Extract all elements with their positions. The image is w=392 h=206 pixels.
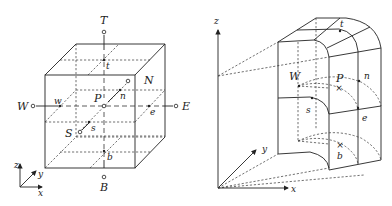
label-b: b: [107, 152, 113, 162]
label-S: S: [65, 127, 73, 140]
right-label-t: t: [340, 19, 344, 29]
left-axes: z y x: [13, 160, 44, 198]
label-W: W: [17, 100, 30, 113]
label-B: B: [99, 181, 108, 194]
right-label-b: b: [337, 151, 343, 161]
axis-y-label: y: [37, 169, 44, 179]
label-e: e: [150, 107, 155, 117]
figure-canvas: T B W E N S P t b w e n s z y x z x y: [0, 0, 392, 206]
axis-x-label: x: [38, 188, 43, 198]
curvilinear-diagram: z x y: [213, 16, 381, 194]
right-axis-x-label: x: [291, 184, 296, 194]
label-s: s: [91, 123, 96, 133]
node-N: [126, 79, 130, 83]
axis-z-label: z: [13, 160, 19, 170]
right-axis-y-label: y: [261, 144, 268, 154]
right-b-marker: ×: [336, 140, 344, 150]
right-label-n: n: [364, 71, 370, 81]
label-T: T: [100, 14, 109, 27]
label-N: N: [143, 74, 154, 87]
label-n: n: [120, 91, 126, 101]
right-label-W: W: [289, 70, 302, 83]
node-W: [31, 104, 35, 108]
label-t: t: [106, 61, 110, 71]
cube-diagram: T B W E N S P t b w e n s z y x: [13, 14, 190, 198]
label-E: E: [181, 100, 190, 113]
right-label-s: s: [306, 105, 311, 115]
node-B: [102, 175, 106, 179]
node-P: [102, 104, 106, 108]
right-axis-z-label: z: [213, 16, 219, 26]
node-T: [102, 30, 106, 34]
label-w: w: [54, 96, 62, 106]
right-label-P: P: [335, 72, 344, 85]
right-label-e: e: [362, 113, 367, 123]
label-P: P: [93, 92, 102, 105]
node-S: [78, 130, 82, 134]
node-E: [174, 104, 178, 108]
